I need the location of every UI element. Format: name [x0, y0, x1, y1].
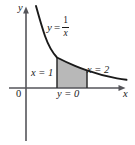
curve-label-equals: =	[53, 22, 61, 33]
curve-equation-label: y = 1 x	[47, 16, 69, 38]
curve-label-y: y	[47, 22, 52, 33]
fraction-numerator: 1	[62, 16, 69, 26]
y-axis-arrow-icon	[23, 7, 29, 14]
fraction-denominator: x	[63, 29, 69, 39]
label-origin: 0	[16, 89, 21, 100]
label-x-equals-1: x = 1	[31, 68, 53, 79]
label-x-axis: x	[123, 89, 128, 100]
fraction-one-over-x: 1 x	[62, 16, 69, 38]
label-x-equals-2: x = 2	[87, 65, 109, 76]
shaded-region	[57, 58, 87, 89]
figure-area-under-curve: y = 1 x x = 1 x = 2 y = 0 0 y x	[0, 0, 135, 145]
label-y-equals-0: y = 0	[57, 89, 79, 100]
label-y-axis: y	[18, 3, 23, 14]
